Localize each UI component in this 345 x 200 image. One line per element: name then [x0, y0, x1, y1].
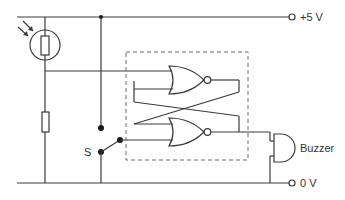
positive-supply-label: +5 V	[300, 11, 324, 23]
buzzer-label: Buzzer	[300, 142, 335, 154]
nor-gate-top	[134, 66, 239, 94]
light-arrows-icon	[18, 21, 33, 36]
feedback-wire-top-to-bottom	[134, 92, 239, 124]
switch-contact-top	[98, 125, 104, 131]
ground-supply-label: 0 V	[300, 177, 317, 189]
resistor-component	[42, 112, 49, 183]
circuit-diagram: S Buzzer +5 V 0 V	[0, 0, 345, 200]
ldr-component	[18, 17, 60, 112]
feedback-wire-bottom-to-top	[134, 102, 239, 116]
positive-terminal	[289, 14, 295, 20]
nor-gate-bottom	[134, 116, 270, 146]
switch-label: S	[84, 146, 91, 158]
buzzer-component	[270, 132, 295, 183]
ground-terminal	[289, 180, 295, 186]
latch-boundary	[126, 52, 248, 160]
